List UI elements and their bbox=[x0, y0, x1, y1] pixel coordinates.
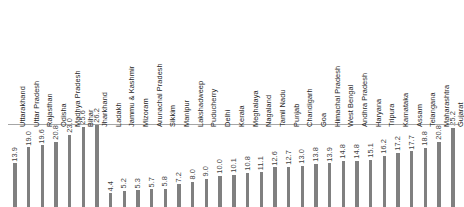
category-tick-label: Haryana bbox=[374, 99, 381, 127]
category-tick: Goa bbox=[309, 127, 323, 207]
category-tick-label: Sikkim bbox=[169, 105, 176, 127]
category-tick-label: Gujarat bbox=[457, 102, 464, 127]
category-tick-label: Uttarakhand bbox=[19, 86, 26, 127]
category-tick-label: Uttar Pradesh bbox=[32, 81, 39, 127]
category-tick-label: Ladakh bbox=[114, 102, 121, 127]
category-tick-label: Kerala bbox=[238, 105, 245, 127]
category-tick: Sikkim bbox=[159, 127, 173, 207]
category-tick: Bihar bbox=[76, 127, 90, 207]
category-tick: Uttar Pradesh bbox=[22, 127, 36, 207]
category-tick: Jharkhand bbox=[90, 127, 104, 207]
category-tick: Arunachal Pradesh bbox=[145, 127, 159, 207]
category-tick: Jammu & Kashmir bbox=[118, 127, 132, 207]
category-tick-label: Himachal Pradesh bbox=[333, 66, 340, 127]
category-tick: Gujarat bbox=[446, 127, 460, 207]
category-tick-label: Tamil Nadu bbox=[279, 90, 286, 127]
category-tick-label: Tripura bbox=[388, 104, 395, 128]
category-tick-label: Puducherry bbox=[210, 89, 217, 127]
category-tick: Karnataka bbox=[391, 127, 405, 207]
category-tick: Haryana bbox=[364, 127, 378, 207]
category-tick: Odisha bbox=[49, 127, 63, 207]
category-tick-label: West Bengal bbox=[347, 85, 354, 127]
category-tick-label: Jharkhand bbox=[101, 92, 108, 127]
category-tick-label: Maharashtra bbox=[443, 85, 450, 127]
category-tick: Mizoram bbox=[131, 127, 145, 207]
category-tick-label: Chandigarh bbox=[306, 88, 313, 127]
category-tick: Madhya Pradesh bbox=[63, 127, 77, 207]
category-tick-label: Madhya Pradesh bbox=[73, 70, 80, 127]
category-tick: Maharashtra bbox=[432, 127, 446, 207]
plot-area: 13.919.019.620.823.025.626.24.45.25.35.7… bbox=[0, 0, 464, 207]
category-tick-label: Meghalaya bbox=[251, 90, 258, 127]
category-tick: West Bengal bbox=[337, 127, 351, 207]
category-tick: Chandigarh bbox=[295, 127, 309, 207]
category-tick: Tripura bbox=[378, 127, 392, 207]
category-tick-label: Lakshadweep bbox=[196, 81, 203, 127]
category-tick-label: Telangana bbox=[429, 92, 436, 127]
category-tick: Lakshadweep bbox=[186, 127, 200, 207]
category-tick-label: Karnataka bbox=[402, 93, 409, 127]
category-tick-label: Manipur bbox=[183, 100, 190, 127]
category-tick: Delhi bbox=[213, 127, 227, 207]
category-tick: Puducherry bbox=[200, 127, 214, 207]
category-tick: Telangana bbox=[419, 127, 433, 207]
category-tick: Nagaland bbox=[254, 127, 268, 207]
bar-chart: 13.919.019.620.823.025.626.24.45.25.35.7… bbox=[0, 0, 464, 207]
category-tick-label: Odisha bbox=[60, 103, 67, 127]
category-tick-label: Goa bbox=[320, 113, 327, 127]
category-tick: Meghalaya bbox=[241, 127, 255, 207]
category-tick-label: Arunachal Pradesh bbox=[155, 63, 162, 127]
category-tick: Manipur bbox=[172, 127, 186, 207]
category-tick: Andhra Pradesh bbox=[350, 127, 364, 207]
category-tick: Himachal Pradesh bbox=[323, 127, 337, 207]
category-tick-label: Delhi bbox=[224, 110, 231, 127]
category-tick: Assam bbox=[405, 127, 419, 207]
category-tick-label: Rajasthan bbox=[46, 93, 53, 127]
category-tick-label: Nagaland bbox=[265, 95, 272, 127]
category-tick-label: Assam bbox=[415, 104, 422, 127]
category-axis-labels: UttarakhandUttar PradeshRajasthanOdishaM… bbox=[8, 127, 460, 207]
category-tick: Ladakh bbox=[104, 127, 118, 207]
category-tick: Punjab bbox=[282, 127, 296, 207]
category-tick-label: Punjab bbox=[292, 104, 299, 127]
category-tick: Uttarakhand bbox=[8, 127, 22, 207]
category-tick: Rajasthan bbox=[35, 127, 49, 207]
category-tick-label: Andhra Pradesh bbox=[361, 73, 368, 127]
category-tick-label: Bihar bbox=[87, 109, 94, 127]
category-tick: Tamil Nadu bbox=[268, 127, 282, 207]
category-tick-label: Jammu & Kashmir bbox=[128, 66, 135, 127]
category-tick-label: Mizoram bbox=[142, 98, 149, 127]
category-tick: Kerala bbox=[227, 127, 241, 207]
